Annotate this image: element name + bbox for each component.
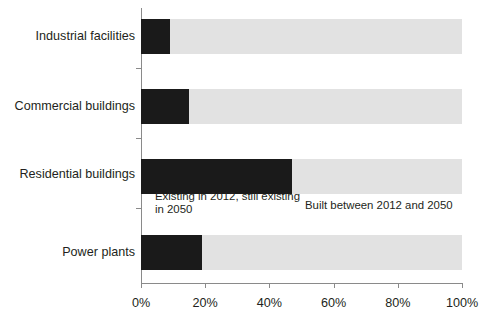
x-axis-label-20: 20% [175, 296, 235, 310]
x-axis-tick [269, 283, 270, 288]
bar-segment-existing [141, 235, 202, 270]
bar-segment-existing [141, 159, 292, 194]
x-axis-label-80: 80% [368, 296, 428, 310]
x-axis-tick [334, 283, 335, 288]
category-label-industrial-facilities: Industrial facilities [0, 29, 135, 43]
category-label-residential-buildings: Residential buildings [0, 167, 135, 181]
bar-segment-existing [141, 89, 189, 124]
x-axis-tick [398, 283, 399, 288]
x-axis-label-0: 0% [111, 296, 171, 310]
plot-area: 0% 20% 40% 60% 80% 100% [141, 8, 462, 283]
x-axis-tick [205, 283, 206, 288]
x-axis-tick [462, 283, 463, 288]
x-axis-label-40: 40% [239, 296, 299, 310]
series-annotation-built: Built between 2012 and 2050 [305, 199, 455, 212]
bar-segment-existing [141, 19, 170, 54]
x-axis-line [141, 283, 463, 284]
x-axis-label-100: 100% [432, 296, 482, 310]
bar-segment-built [170, 19, 462, 54]
series-annotation-existing: Existing in 2012, still existing in 2050 [155, 190, 305, 216]
category-label-power-plants: Power plants [0, 245, 135, 259]
x-axis-label-60: 60% [304, 296, 364, 310]
bar-segment-built [202, 235, 462, 270]
category-label-commercial-buildings: Commercial buildings [0, 99, 135, 113]
bar-segment-built [189, 89, 462, 124]
bar-segment-built [292, 159, 462, 194]
stacked-bar-chart: Industrial facilities Commercial buildin… [0, 0, 482, 310]
x-axis-tick [141, 283, 142, 288]
